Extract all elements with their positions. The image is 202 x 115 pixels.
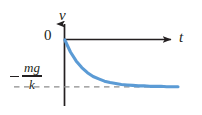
velocity-time-figure: v t 0 mg k — [0, 0, 202, 115]
asymptote-label: mg k — [10, 61, 42, 91]
x-axis-label: t — [179, 30, 183, 45]
y-axis-label: v — [59, 8, 66, 23]
fraction: mg k — [22, 61, 42, 91]
velocity-decay-curve — [65, 40, 178, 87]
fraction-numerator: mg — [22, 61, 42, 75]
origin-label: 0 — [44, 28, 52, 43]
fraction-denominator: k — [27, 77, 37, 91]
plot-canvas — [0, 0, 202, 115]
minus-sign-icon — [10, 76, 19, 78]
